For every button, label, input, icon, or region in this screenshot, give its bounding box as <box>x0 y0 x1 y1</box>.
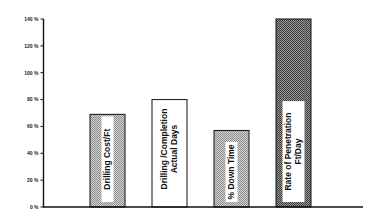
bar-4: Rate of PenetrationFt/Day <box>276 19 311 207</box>
bars: Drilling Cost/FtDrilling /CompletionActu… <box>90 19 311 207</box>
y-tick-label: 40 % <box>27 150 39 156</box>
bar-chart: 0 %20 %40 %60 %80 %100 %120 %140 % Drill… <box>0 0 380 219</box>
bar-2: Drilling /CompletionActual Days <box>152 100 187 207</box>
bar-label: % Down Time <box>226 144 236 199</box>
bar-label: Drilling Cost/Ft <box>102 129 112 190</box>
y-tick-label: 80 % <box>27 96 39 102</box>
y-tick-label: 140 % <box>24 16 39 22</box>
bar-label: Actual Days <box>169 124 179 173</box>
y-tick-label: 120 % <box>24 43 39 49</box>
bar-3: % Down Time <box>214 130 249 207</box>
y-tick-label: 20 % <box>27 177 39 183</box>
bar-label: Drilling /Completion <box>159 109 169 190</box>
bar-label: Ft/Day <box>293 138 303 164</box>
bar-label: Rate of Penetration <box>283 113 293 191</box>
y-axis: 0 %20 %40 %60 %80 %100 %120 %140 % <box>24 16 43 210</box>
y-tick-label: 100 % <box>24 70 39 76</box>
y-tick-label: 0 % <box>30 204 39 210</box>
y-tick-label: 60 % <box>27 123 39 129</box>
bar-1: Drilling Cost/Ft <box>90 114 125 207</box>
